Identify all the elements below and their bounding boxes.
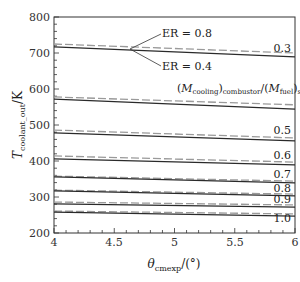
- x-tick-label: 4.5: [105, 236, 123, 249]
- ratio-label-1.0: 1.0: [274, 212, 292, 225]
- x-tick-label: 5: [171, 236, 178, 249]
- annotation-er-0.8: ER = 0.8: [162, 27, 212, 40]
- y-tick-label: 300: [29, 191, 50, 204]
- ratio-label-0.6: 0.6: [274, 149, 292, 162]
- annotation-er-0.4: ER = 0.4: [162, 60, 212, 73]
- x-axis-ticks: [54, 228, 295, 233]
- line-chart: 200 300 400 500 600 700 800 4 4.5 5 5.5 …: [0, 0, 300, 282]
- ratio-label-0.9: 0.9: [274, 193, 292, 206]
- y-tick-labels: 200 300 400 500 600 700 800: [29, 11, 50, 240]
- x-tick-label: 4: [51, 236, 58, 249]
- plot-area: [54, 17, 295, 233]
- x-tick-label: 6: [292, 236, 299, 249]
- ratio-label-0.5: 0.5: [274, 124, 292, 137]
- y-tick-label: 200: [29, 227, 50, 240]
- series-line: [54, 156, 295, 162]
- y-axis-title: Tcoolant_out/K: [11, 90, 27, 159]
- ratio-labels: 0.3 0.5 0.6 0.7 0.8 0.9 1.0: [274, 42, 292, 225]
- ratio-label-0.7: 0.7: [274, 168, 292, 181]
- annotation-mass-ratio: (Mcooling)combustor/(Mfuel)st = 0.4: [177, 82, 300, 96]
- y-axis-ticks: [54, 17, 59, 233]
- y-tick-label: 800: [29, 11, 50, 24]
- ratio-label-0.3: 0.3: [274, 42, 292, 55]
- x-tick-label: 5.5: [226, 236, 244, 249]
- y-tick-label: 500: [29, 119, 50, 132]
- x-tick-labels: 4 4.5 5 5.5 6: [51, 236, 299, 249]
- y-tick-label: 600: [29, 83, 50, 96]
- y-tick-label: 400: [29, 155, 50, 168]
- series-line: [54, 159, 295, 165]
- x-axis-title: θcmexp/(°): [147, 257, 200, 273]
- y-tick-label: 700: [29, 47, 50, 60]
